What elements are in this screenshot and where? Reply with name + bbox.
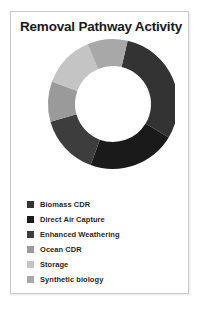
legend-item-3[interactable]: Ocean CDR (27, 242, 177, 257)
square-swatch-icon (27, 231, 34, 238)
square-swatch-icon (27, 201, 34, 208)
page-title: Removal Pathway Activity (20, 19, 183, 34)
legend-item-0[interactable]: Biomass CDR (27, 197, 177, 212)
donut-slice-group (48, 39, 175, 169)
legend-item-label: Enhanced Weathering (40, 230, 120, 239)
legend-item-label: Ocean CDR (40, 245, 82, 254)
donut-chart-svg (25, 34, 175, 179)
legend-item-2[interactable]: Enhanced Weathering (27, 227, 177, 242)
square-swatch-icon (27, 216, 34, 223)
square-swatch-icon (27, 261, 34, 268)
legend-item-label: Synthetic biology (40, 275, 103, 284)
donut-slice-2[interactable] (50, 114, 99, 165)
legend-item-label: Biomass CDR (40, 200, 90, 209)
legend-item-1[interactable]: Direct Air Capture (27, 212, 177, 227)
square-swatch-icon (27, 276, 34, 283)
donut-chart (11, 34, 188, 194)
legend-item-4[interactable]: Storage (27, 257, 177, 272)
legend-item-label: Storage (40, 260, 68, 269)
donut-slice-0[interactable] (122, 41, 175, 138)
square-swatch-icon (27, 246, 34, 253)
legend-item-5[interactable]: Synthetic biology (27, 272, 177, 287)
legend-item-label: Direct Air Capture (40, 215, 105, 224)
removal-pathway-activity-card: Removal Pathway Activity Biomass CDRDire… (10, 11, 189, 294)
chart-legend: Biomass CDRDirect Air CaptureEnhanced We… (27, 197, 177, 287)
